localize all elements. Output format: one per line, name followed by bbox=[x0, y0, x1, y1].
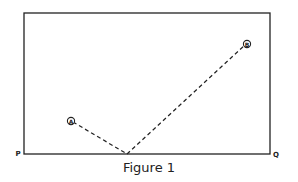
figure-caption: Figure 1 bbox=[0, 160, 298, 175]
corner-q-label: Q bbox=[273, 151, 279, 159]
path-a-to-mirror bbox=[73, 122, 127, 154]
figure-diagram: A B P Q bbox=[0, 0, 298, 182]
point-b-label: B bbox=[245, 41, 250, 48]
path-mirror-to-b bbox=[127, 44, 246, 154]
point-b-marker: B bbox=[243, 40, 250, 47]
corner-p-label: P bbox=[15, 150, 20, 158]
point-a-label: A bbox=[69, 118, 74, 125]
rectangle-frame bbox=[24, 13, 270, 154]
point-a-marker: A bbox=[67, 117, 74, 124]
